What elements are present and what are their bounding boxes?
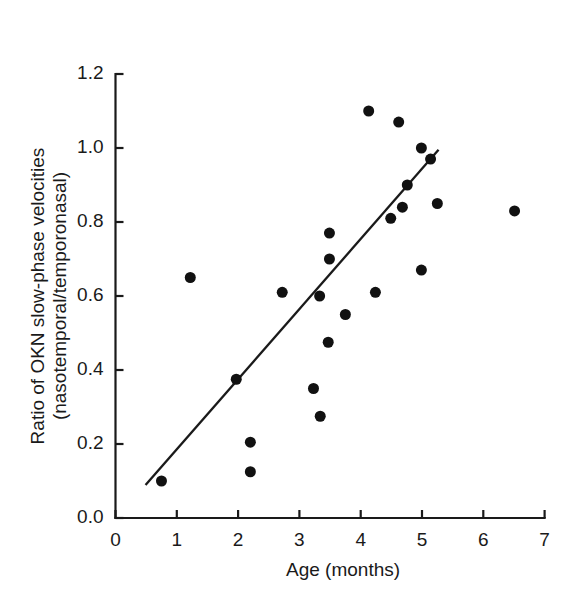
data-point-5	[277, 287, 288, 298]
x-axis-title: Age (months)	[286, 559, 400, 580]
data-point-15	[385, 213, 396, 224]
y-axis-title-line1: Ratio of OKN slow-phase velocities	[27, 148, 48, 445]
x-tick-label-5: 5	[417, 529, 428, 550]
data-point-22	[432, 198, 443, 209]
x-tick-label-6: 6	[478, 529, 489, 550]
data-point-10	[324, 228, 335, 239]
scatter-plot-figure: 012345670.00.20.40.60.81.01.2 Age (month…	[0, 0, 580, 604]
data-point-14	[370, 287, 381, 298]
data-point-19	[416, 143, 427, 154]
ticks-group	[116, 74, 545, 518]
data-point-1	[185, 272, 196, 283]
y-tick-label-0.4: 0.4	[77, 358, 104, 379]
data-point-9	[323, 337, 334, 348]
y-tick-label-1.0: 1.0	[77, 136, 103, 157]
data-point-21	[425, 154, 436, 165]
regression-trend-line	[146, 150, 439, 485]
y-tick-label-1.2: 1.2	[77, 62, 103, 83]
y-tick-label-0.2: 0.2	[77, 432, 103, 453]
data-point-11	[324, 254, 335, 265]
plot-canvas: 012345670.00.20.40.60.81.01.2 Age (month…	[0, 0, 580, 604]
data-point-0	[156, 476, 167, 487]
x-tick-label-2: 2	[233, 529, 244, 550]
data-point-16	[393, 117, 404, 128]
x-tick-label-3: 3	[294, 529, 305, 550]
data-point-3	[245, 437, 256, 448]
data-points-group	[156, 106, 520, 487]
data-point-2	[231, 374, 242, 385]
x-tick-label-0: 0	[110, 529, 121, 550]
data-point-7	[314, 291, 325, 302]
trend-line-group	[146, 150, 439, 485]
data-point-6	[308, 383, 319, 394]
tick-labels-group: 012345670.00.20.40.60.81.01.2	[77, 62, 550, 550]
data-point-23	[509, 205, 520, 216]
x-tick-label-4: 4	[355, 529, 366, 550]
data-point-12	[340, 309, 351, 320]
y-tick-label-0.0: 0.0	[77, 506, 103, 527]
data-point-20	[416, 265, 427, 276]
data-point-4	[245, 466, 256, 477]
axes-group	[116, 74, 545, 518]
data-point-18	[402, 180, 413, 191]
y-tick-label-0.8: 0.8	[77, 210, 103, 231]
y-axis-title-line2: (nasotemporal/temporonasal)	[49, 172, 70, 420]
data-point-8	[315, 411, 326, 422]
x-tick-label-1: 1	[172, 529, 183, 550]
y-tick-label-0.6: 0.6	[77, 284, 103, 305]
data-point-17	[397, 202, 408, 213]
x-tick-label-7: 7	[539, 529, 550, 550]
data-point-13	[363, 106, 374, 117]
